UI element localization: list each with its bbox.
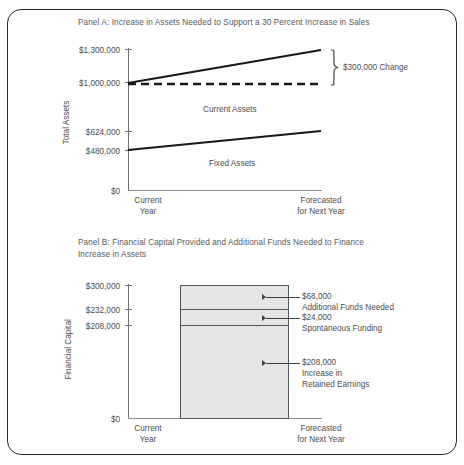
panel-a-region-label-current-assets: Current Assets bbox=[203, 105, 257, 114]
panel-b-leader-retained-earnings bbox=[266, 363, 300, 364]
panel-b-leader-additional-funds bbox=[266, 297, 300, 298]
panel-a-brace-label: $300,000 Change bbox=[343, 63, 408, 72]
panel-b-ylabel-232000: $232,000 bbox=[58, 306, 120, 315]
panel-a-xlabel-current-year: Current Year bbox=[103, 195, 193, 217]
panel-b-annotation-retained-earnings: $208,000 Increase in Retained Earnings bbox=[302, 357, 369, 390]
panel-b-leader-spontaneous-funding bbox=[266, 318, 300, 319]
panel-b-annotation-spontaneous-funding: $24,000 Spontaneous Funding bbox=[302, 312, 382, 334]
panel-b-xlabel-current-year: Current Year bbox=[103, 423, 193, 445]
panel-b-bar-segment-retained-earnings bbox=[180, 325, 289, 419]
panel-a-brace-icon bbox=[331, 50, 338, 85]
panel-a-region-label-fixed-assets: Fixed Assets bbox=[209, 159, 255, 168]
panel-a-fixed-assets-line bbox=[128, 131, 321, 150]
panel-b-tick-300000 bbox=[125, 285, 132, 286]
panel-b-annotation-additional-funds-needed: $68,000 Additional Funds Needed bbox=[302, 291, 394, 313]
panel-b-tick-232000 bbox=[125, 309, 132, 310]
panel-b-tick-208000 bbox=[125, 325, 132, 326]
panel-b-title: Panel B: Financial Capital Provided and … bbox=[78, 237, 378, 261]
panel-a-xlabel-forecasted: Forecasted for Next Year bbox=[276, 195, 366, 217]
panel-b-y-axis bbox=[128, 284, 129, 419]
panel-b-xlabel-forecasted: Forecasted for Next Year bbox=[276, 423, 366, 445]
panel-b-ylabel-208000: $208,000 bbox=[58, 322, 120, 331]
panel-a-total-assets-line bbox=[128, 50, 321, 83]
panel-b-ylabel-300000: $300,000 bbox=[58, 282, 120, 291]
